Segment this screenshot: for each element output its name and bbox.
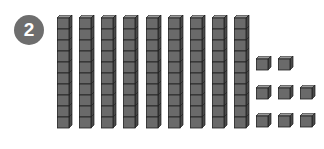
tens-rod	[190, 15, 207, 130]
tens-rod	[212, 15, 229, 130]
unit-cube	[256, 113, 273, 129]
unit-cube	[256, 85, 273, 101]
tens-rod	[123, 15, 140, 130]
unit-cube	[256, 56, 273, 72]
tens-rod	[79, 15, 96, 130]
unit-cube	[300, 113, 317, 129]
unit-cube	[278, 56, 295, 72]
unit-cube	[278, 113, 295, 129]
unit-cube	[278, 85, 295, 101]
tens-rod	[168, 15, 185, 130]
problem-number-badge: 2	[14, 15, 44, 45]
unit-cube	[300, 85, 317, 101]
tens-rod	[101, 15, 118, 130]
tens-rod	[57, 15, 74, 130]
tens-rod	[146, 15, 163, 130]
tens-rod	[234, 15, 251, 130]
